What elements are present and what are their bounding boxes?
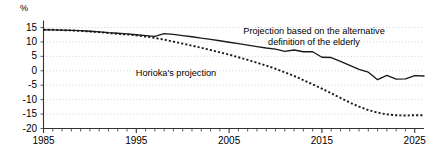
x-axis-tick-label: 2015 <box>300 136 344 146</box>
y-axis-tick-label: 15 <box>11 23 37 33</box>
y-axis-tick-label: -5 <box>11 80 37 90</box>
y-axis-tick-label: 5 <box>11 51 37 61</box>
x-axis-tick-label: 1985 <box>22 136 66 146</box>
x-axis-tick-label: 2025 <box>393 136 433 146</box>
y-axis-tick-label: -10 <box>11 95 37 105</box>
x-axis-tick-label: 1995 <box>114 136 158 146</box>
y-axis-tick-label: 0 <box>11 66 37 76</box>
y-axis-tick-label: -15 <box>11 109 37 119</box>
horioka-projection-label: Horioka's projection <box>136 68 216 79</box>
chart-container: % 151050-5-10-15-20 19851995200520152025… <box>0 0 433 161</box>
x-axis-tick-label: 2005 <box>207 136 251 146</box>
alternative-definition-label: Projection based on the alternativedefin… <box>243 26 384 48</box>
x-axis-ticks <box>44 129 415 134</box>
y-axis-tick-label: -20 <box>11 124 37 134</box>
y-axis-tick-label: 10 <box>11 37 37 47</box>
